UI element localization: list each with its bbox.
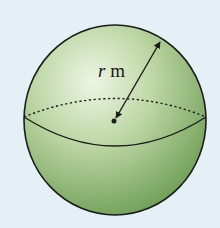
radius-label: r m	[98, 60, 125, 82]
radius-variable: r	[98, 60, 105, 81]
sphere-diagram: r m	[0, 0, 220, 228]
center-point	[112, 119, 117, 124]
sphere-graphic	[0, 0, 220, 228]
radius-unit: m	[110, 60, 125, 81]
